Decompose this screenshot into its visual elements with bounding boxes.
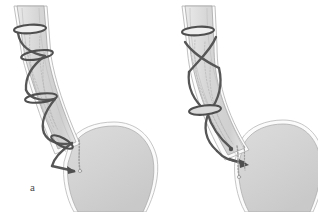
panel-a-label: a	[30, 182, 35, 193]
suture-knot-b	[229, 147, 233, 151]
stomach-b	[234, 120, 318, 212]
stomach-a	[63, 122, 157, 212]
panel-b: b	[159, 0, 318, 212]
panel-b-illustration	[159, 0, 318, 212]
figure-container: a	[0, 0, 318, 212]
panel-a: a	[0, 0, 159, 212]
panel-a-illustration	[0, 0, 159, 212]
